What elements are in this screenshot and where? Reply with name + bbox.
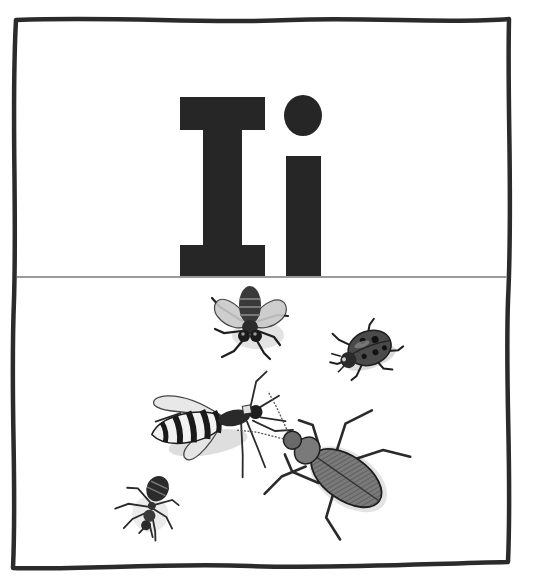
alphabet-card: Ii <box>0 0 548 577</box>
letter-lowercase-i <box>284 95 322 276</box>
